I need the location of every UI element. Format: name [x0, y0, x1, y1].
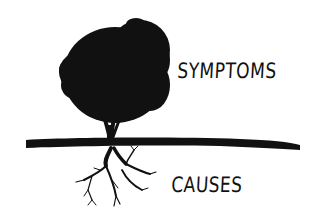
tree-diagram: SYMPTOMS CAUSES — [0, 0, 324, 224]
symptoms-label: SYMPTOMS — [177, 58, 278, 83]
ground-line-icon — [26, 138, 300, 150]
tree-illustration — [0, 0, 324, 224]
tree-roots-icon — [76, 146, 156, 206]
causes-label: CAUSES — [171, 172, 244, 197]
